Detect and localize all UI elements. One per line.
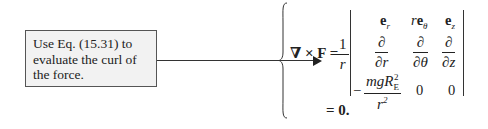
result-zero: = 0.: [326, 102, 350, 119]
annotation-text: Use Eq. (15.31) to evaluate the curl of …: [33, 36, 137, 82]
matrix-zero-1: 0: [416, 82, 423, 99]
left-brace-icon: [278, 2, 288, 119]
partial-r: ∂∂r: [375, 34, 388, 71]
annotation-box: Use Eq. (15.31) to evaluate the curl of …: [25, 30, 157, 87]
unit-vector-etheta: reθ: [411, 12, 428, 31]
partial-z: ∂∂z: [442, 34, 455, 71]
minus-sign: −: [353, 82, 361, 99]
determinant-left-bar: [350, 10, 351, 96]
matrix-zero-2: 0: [448, 82, 455, 99]
partial-theta: ∂∂θ: [413, 34, 428, 71]
unit-vector-ez: ez: [445, 12, 455, 31]
prefactor-fraction: 1 r: [337, 36, 349, 73]
unit-vector-er: er: [380, 12, 390, 31]
determinant-right-bar: [463, 10, 464, 96]
curl-lhs: ∇ × F =: [290, 44, 338, 62]
force-component-fraction: mgRE2 r2: [364, 72, 401, 113]
